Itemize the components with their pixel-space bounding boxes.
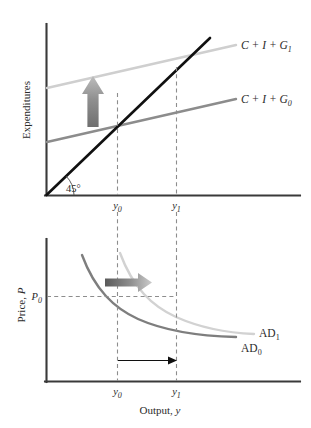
label-c-i-g0: C + I + G0	[241, 93, 292, 108]
bottom-ytick-p0: P0	[31, 291, 42, 305]
label-ad1-base: AD	[259, 327, 276, 339]
series-line-c-i-g1	[47, 45, 236, 88]
bottom-panel: AD1 AD0 P0 Price, P y0 y1 Output, y	[15, 239, 300, 416]
bottom-x-axis-title-var: y	[175, 404, 181, 416]
bottom-y-axis-title-var: P	[15, 287, 27, 295]
top-xtick-y1: y1	[171, 200, 181, 214]
bottom-xtick-y0-sub: 0	[118, 391, 122, 400]
label-ad1-sub: 1	[276, 333, 280, 342]
bottom-xtick-y0: y0	[112, 386, 122, 400]
bottom-ytick-p0-sub: 0	[38, 296, 42, 305]
series-curve-ad1	[120, 253, 254, 334]
top-xtick-y0: y0	[112, 200, 122, 214]
output-gap-arrow	[118, 357, 177, 365]
top-panel: C + I + G1 C + I + G0 45° Expenditures y…	[20, 24, 300, 214]
bottom-y-axis-title: Price, P	[15, 287, 27, 322]
label-c-i-g1-base: C + I + G	[241, 39, 289, 51]
rightward-shift-arrow	[105, 273, 152, 292]
label-c-i-g1-sub: 1	[288, 45, 292, 54]
upward-shift-arrow	[82, 76, 104, 127]
bottom-x-axis-title: Output, y	[140, 404, 181, 416]
bottom-x-axis-title-base: Output,	[140, 404, 176, 416]
label-c-i-g0-base: C + I + G	[241, 93, 289, 105]
label-ad0-sub: 0	[258, 348, 262, 357]
bottom-y-axis-title-base: Price,	[15, 294, 27, 322]
label-ad0: AD0	[241, 342, 262, 357]
bottom-xtick-y1-sub: 1	[177, 391, 181, 400]
label-45-degree: 45°	[66, 183, 81, 194]
label-c-i-g1: C + I + G1	[241, 39, 292, 54]
series-line-45-degree	[47, 38, 211, 195]
label-ad1: AD1	[259, 327, 280, 342]
label-c-i-g0-sub: 0	[288, 99, 292, 108]
economics-figure: C + I + G1 C + I + G0 45° Expenditures y…	[0, 0, 311, 428]
panel-connector-guides	[118, 212, 177, 256]
top-xtick-y0-sub: 0	[118, 205, 122, 214]
bottom-xtick-y1: y1	[171, 386, 181, 400]
label-ad0-base: AD	[241, 342, 258, 354]
top-y-axis-title: Expenditures	[20, 81, 32, 139]
top-xtick-y1-sub: 1	[177, 205, 181, 214]
